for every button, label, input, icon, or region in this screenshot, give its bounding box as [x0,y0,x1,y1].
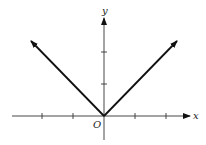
left-branch [31,41,104,116]
right-branch [104,41,177,116]
x-axis-label: x [193,110,199,121]
y-axis-label: y [101,5,108,16]
graph: x y O [0,0,206,145]
origin-label: O [93,119,101,130]
